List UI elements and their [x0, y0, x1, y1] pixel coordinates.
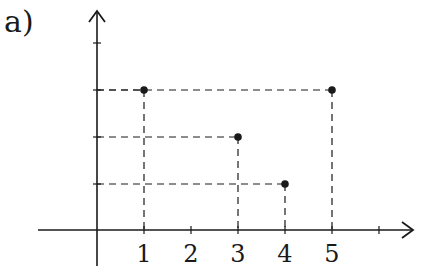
data-point [328, 86, 336, 94]
x-tick-label: 5 [324, 240, 339, 268]
data-point [140, 86, 148, 94]
data-point [281, 180, 289, 188]
x-tick-label: 2 [183, 240, 198, 268]
x-tick-label: 4 [277, 240, 292, 268]
x-tick-label: 1 [136, 240, 151, 268]
x-tick-label: 3 [230, 240, 245, 268]
coordinate-plot: 12345 [0, 0, 427, 275]
data-point [234, 133, 242, 141]
